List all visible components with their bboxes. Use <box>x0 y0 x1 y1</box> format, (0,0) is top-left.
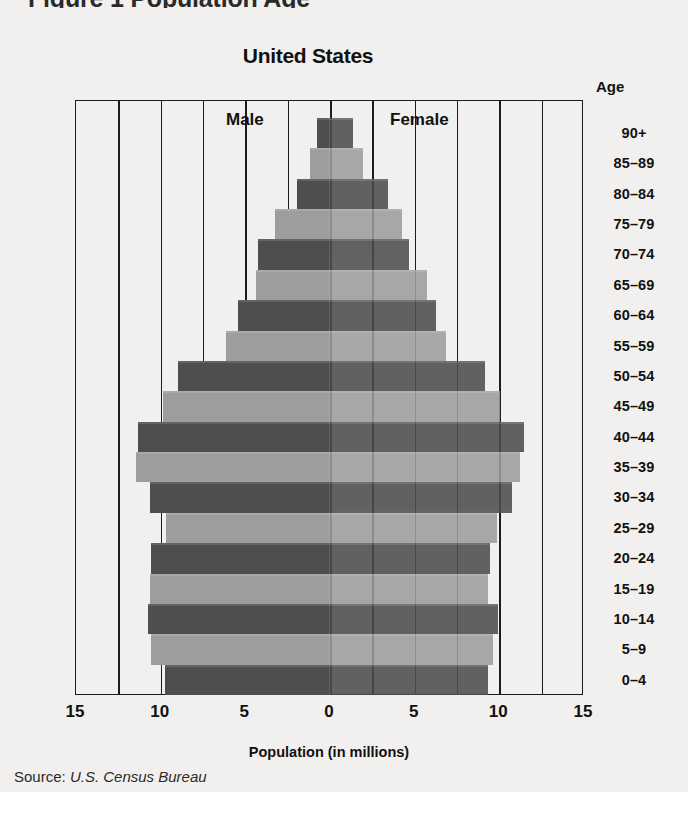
legend-label-female: Female <box>390 110 449 130</box>
bars-container <box>75 118 583 695</box>
age-label: 50–54 <box>596 361 672 391</box>
bar-female <box>329 331 446 361</box>
bar-male <box>136 452 329 482</box>
bar-male <box>148 604 329 634</box>
bar-female <box>329 361 485 391</box>
bar-female <box>329 179 388 209</box>
x-tick-label: 0 <box>309 702 349 722</box>
age-label: 75–79 <box>596 209 672 239</box>
pyramid-row <box>75 634 583 664</box>
age-labels-column: 90+85–8980–8475–7970–7465–6960–6455–5950… <box>596 118 680 695</box>
pyramid-row <box>75 209 583 239</box>
bar-male <box>256 270 329 300</box>
bar-female <box>329 118 353 148</box>
x-tick-label: 10 <box>478 702 518 722</box>
legend-label-male: Male <box>226 110 264 130</box>
pyramid-row <box>75 179 583 209</box>
bar-male <box>297 179 329 209</box>
source-note: Source: U.S. Census Bureau <box>14 768 207 785</box>
pyramid-row <box>75 239 583 269</box>
bar-male <box>275 209 329 239</box>
pyramid-row <box>75 604 583 634</box>
x-tick-label: 15 <box>55 702 95 722</box>
x-tick-label: 10 <box>140 702 180 722</box>
bar-male <box>166 513 329 543</box>
bar-female <box>329 391 500 421</box>
x-axis-ticks: 15105051015 <box>75 702 583 728</box>
clipped-figure-header: Figure 1 Population Age <box>28 0 668 8</box>
pyramid-row <box>75 665 583 695</box>
bar-male <box>317 118 329 148</box>
bar-male <box>150 482 329 512</box>
pyramid-row <box>75 482 583 512</box>
source-label: Source: <box>14 768 66 785</box>
age-label: 40–44 <box>596 422 672 452</box>
bar-male <box>238 300 329 330</box>
age-label: 80–84 <box>596 179 672 209</box>
bar-female <box>329 543 490 573</box>
chart-title: United States <box>0 44 616 68</box>
age-label: 45–49 <box>596 391 672 421</box>
bar-female <box>329 482 512 512</box>
bar-male <box>151 634 329 664</box>
bar-male <box>165 665 329 695</box>
bar-male <box>150 574 329 604</box>
bar-male <box>138 422 329 452</box>
bar-female <box>329 452 520 482</box>
x-tick-label: 5 <box>394 702 434 722</box>
pyramid-row <box>75 452 583 482</box>
pyramid-row <box>75 574 583 604</box>
pyramid-row <box>75 148 583 178</box>
bar-female <box>329 422 524 452</box>
age-label: 65–69 <box>596 270 672 300</box>
age-label: 30–34 <box>596 482 672 512</box>
pyramid-row <box>75 543 583 573</box>
bar-female <box>329 604 498 634</box>
pyramid-row <box>75 331 583 361</box>
source-value: U.S. Census Bureau <box>70 768 207 785</box>
pyramid-row <box>75 422 583 452</box>
age-column-header: Age <box>596 78 666 95</box>
pyramid-row <box>75 361 583 391</box>
x-axis-title: Population (in millions) <box>75 744 583 760</box>
x-tick-label: 15 <box>563 702 603 722</box>
age-label: 70–74 <box>596 239 672 269</box>
bar-male <box>226 331 329 361</box>
age-label: 0–4 <box>596 665 672 695</box>
age-label: 90+ <box>596 118 672 148</box>
pyramid-row <box>75 513 583 543</box>
bar-male <box>258 239 329 269</box>
bar-male <box>151 543 329 573</box>
age-label: 35–39 <box>596 452 672 482</box>
bar-female <box>329 634 493 664</box>
age-label: 20–24 <box>596 543 672 573</box>
age-label: 10–14 <box>596 604 672 634</box>
bar-male <box>163 391 329 421</box>
age-label: 60–64 <box>596 300 672 330</box>
x-tick-label: 5 <box>224 702 264 722</box>
pyramid-row <box>75 270 583 300</box>
age-label: 5–9 <box>596 634 672 664</box>
age-label: 85–89 <box>596 148 672 178</box>
bar-female <box>329 300 436 330</box>
bar-male <box>178 361 329 391</box>
bar-female <box>329 574 488 604</box>
bar-female <box>329 209 402 239</box>
bar-male <box>310 148 329 178</box>
pyramid-row <box>75 391 583 421</box>
bar-female <box>329 513 497 543</box>
age-label: 55–59 <box>596 331 672 361</box>
bar-female <box>329 239 409 269</box>
bar-female <box>329 270 427 300</box>
bar-female <box>329 148 363 178</box>
age-label: 15–19 <box>596 574 672 604</box>
pyramid-row <box>75 118 583 148</box>
pyramid-row <box>75 300 583 330</box>
bar-female <box>329 665 488 695</box>
age-label: 25–29 <box>596 513 672 543</box>
